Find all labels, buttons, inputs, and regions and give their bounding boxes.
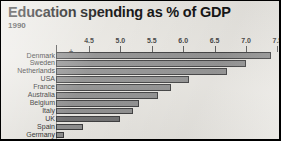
x-tick-label: 5.5 [147, 37, 157, 44]
bar-row: Italy [1, 108, 281, 115]
bar-category-label: Italy [42, 107, 55, 115]
x-tick-label: 5.0 [116, 37, 126, 44]
chart-title: Education spending as % of GDP [8, 4, 276, 20]
bar [56, 132, 64, 139]
bar-category-label: Netherlands [17, 67, 55, 75]
x-tick-label: 6.5 [210, 37, 220, 44]
bar [56, 116, 120, 123]
bar-category-label: France [33, 83, 55, 91]
bar-row: Belgium [1, 100, 281, 107]
title-block: Education spending as % of GDP 1990 [8, 4, 276, 30]
plot-area: + 4.55.05.56.06.57.07.5 DenmarkSwedenNet… [1, 37, 281, 140]
bar-row: Australia [1, 92, 281, 99]
chart-subtitle-year: 1990 [8, 21, 276, 30]
bar-category-label: Sweden [30, 59, 55, 67]
bar [56, 60, 246, 67]
bar [56, 92, 158, 99]
bar [56, 84, 171, 91]
bar [56, 76, 189, 83]
x-tick-label: 4.5 [84, 37, 94, 44]
x-tick-label: 7.5 [273, 37, 281, 44]
axis-origin-tick [56, 45, 57, 52]
x-tick-label: 7.0 [241, 37, 251, 44]
bar-category-label: Spain [37, 123, 55, 131]
bar-row: UK [1, 116, 281, 123]
x-tick-label: 6.0 [178, 37, 188, 44]
bar-category-label: Denmark [27, 52, 55, 60]
bars-area: DenmarkSwedenNetherlandsUSAFranceAustral… [1, 52, 281, 140]
bar-category-label: UK [45, 115, 55, 123]
bar [56, 108, 133, 115]
bar [56, 100, 139, 107]
bar-category-label: Australia [28, 91, 55, 99]
bar [56, 68, 227, 75]
bar-row: Sweden [1, 60, 281, 67]
bar [56, 52, 271, 59]
bar-row: Denmark [1, 52, 281, 59]
bar-category-label: Germany [26, 131, 55, 139]
bar-category-label: USA [41, 75, 55, 83]
bar-category-label: Belgium [30, 99, 55, 107]
bar-row: Germany [1, 132, 281, 139]
bar-row: USA [1, 76, 281, 83]
bar-row: Spain [1, 124, 281, 131]
bar [56, 124, 83, 131]
chart-figure: Education spending as % of GDP 1990 + 4.… [0, 0, 281, 141]
bar-row: France [1, 84, 281, 91]
bar-row: Netherlands [1, 68, 281, 75]
